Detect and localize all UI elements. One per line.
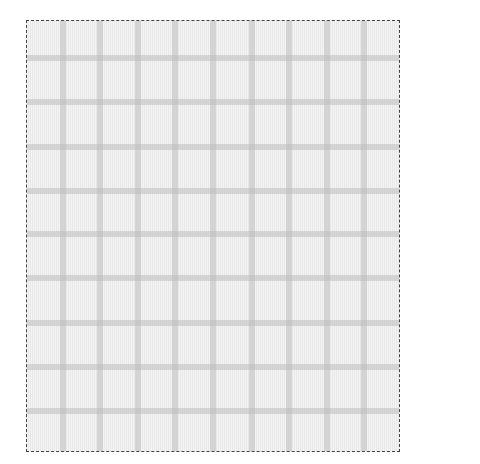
page [0, 0, 480, 464]
grid-line-horizontal [27, 364, 399, 370]
grid-line-horizontal [27, 55, 399, 61]
grid-line-horizontal [27, 320, 399, 326]
grid-line-horizontal [27, 275, 399, 281]
grid-line-horizontal [27, 188, 399, 194]
grid-line-horizontal [27, 408, 399, 414]
image-canvas-selection[interactable] [26, 20, 400, 452]
grid-line-horizontal [27, 99, 399, 105]
grid-line-horizontal [27, 144, 399, 150]
grid-line-horizontal [27, 231, 399, 237]
